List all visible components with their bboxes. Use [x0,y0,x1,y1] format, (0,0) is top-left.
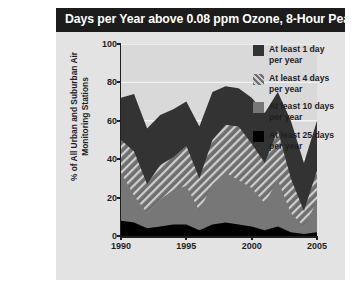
y-axis-label: % of All Urban and Suburban Air Monitori… [69,42,90,192]
black-swatch [253,131,264,142]
legend-item-label: At least 10 daysper year [269,101,334,123]
x-axis-tick: 2000 [242,241,262,251]
x-axis-tick: 1995 [176,241,196,251]
legend-item-2[interactable]: At least 4 daysper year [253,73,349,95]
x-axis-tick-mark [251,236,253,240]
legend-item-label: At least 4 daysper year [269,73,329,95]
dark-gray-swatch [253,45,264,56]
legend-label-line2: per year [269,84,329,95]
y-axis-tick-mark [117,81,121,83]
chart-title: Days per Year above 0.08 ppm Ozone, 8-Ho… [65,12,357,26]
legend-item-label: At least 25 daysper year [269,130,334,152]
legend-label-line1: At least 4 days [269,73,329,84]
chart-title-bar: Days per Year above 0.08 ppm Ozone, 8-Ho… [56,8,345,32]
x-axis-tick: 1990 [111,241,131,251]
y-axis-tick: 20 [107,193,117,203]
y-axis-tick-mark [117,120,121,122]
medium-gray-swatch [253,102,264,113]
legend-label-line2: per year [269,112,334,123]
legend-item-label: At least 1 dayper year [269,44,324,66]
y-axis-tick-mark [117,43,121,45]
y-axis-tick: 40 [107,154,117,164]
legend-item-3[interactable]: At least 10 daysper year [253,101,349,123]
legend-item-4[interactable]: At least 25 daysper year [253,130,349,152]
chart-legend: At least 1 dayper yearAt least 4 daysper… [253,44,349,158]
y-axis-tick-mark [117,158,121,160]
legend-label-line1: At least 10 days [269,101,334,112]
y-axis-tick: 80 [107,77,117,87]
hatched-swatch [253,74,264,85]
y-axis-tick: 100 [102,39,117,49]
x-axis-tick: 2005 [307,241,327,251]
x-axis-line [120,236,318,238]
legend-label-line1: At least 1 day [269,44,324,55]
legend-label-line1: At least 25 days [269,130,334,141]
x-axis-tick-mark [316,236,318,240]
x-axis-tick-mark [185,236,187,240]
y-axis-tick-labels: 020406080100 [89,44,117,236]
y-axis-tick-mark [117,197,121,199]
figure-panel: Days per Year above 0.08 ppm Ozone, 8-Ho… [56,8,345,280]
legend-item-1[interactable]: At least 1 dayper year [253,44,349,66]
y-axis-tick: 60 [107,116,117,126]
legend-label-line2: per year [269,55,324,66]
x-axis-tick-mark [120,236,122,240]
legend-label-line2: per year [269,141,334,152]
